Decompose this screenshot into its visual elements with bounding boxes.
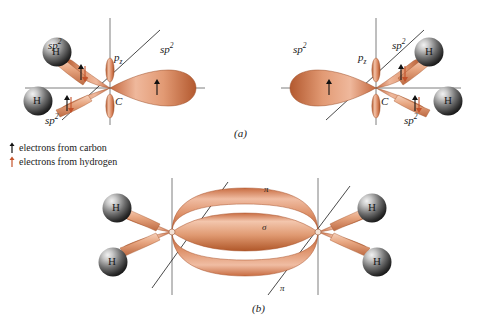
panel-b-ethene [99, 178, 392, 295]
pi-label-bottom: π [280, 284, 285, 293]
sp2-label: sp2 [45, 113, 59, 126]
sigma-bond-lobe [172, 213, 318, 251]
pz-label: pz [358, 52, 366, 66]
panel-b-caption: (b) [252, 303, 265, 314]
hydrogen-label: H [108, 256, 116, 267]
pz-label: pz [114, 52, 122, 66]
bond-stick-right-lower [330, 233, 370, 256]
sp2-label: sp2 [293, 42, 307, 55]
up-arrow-icon [8, 156, 16, 168]
hydrogen-label: H [52, 46, 60, 57]
sigma-label: σ [262, 223, 266, 232]
panel-a-left-atom [24, 18, 206, 125]
legend-item-carbon: electrons from carbon [8, 142, 107, 154]
pz-lobe-lower [372, 94, 380, 118]
pz-lobe-upper [106, 58, 114, 82]
hydrogen-label: H [33, 95, 41, 106]
carbon-label: C [115, 96, 122, 107]
hydrogen-label: H [373, 256, 381, 267]
carbon-nucleus-left [169, 229, 175, 235]
legend-label-hydrogen: electrons from hydrogen [19, 157, 117, 167]
legend-label-carbon: electrons from carbon [19, 143, 107, 153]
sp2-label: sp2 [160, 42, 174, 55]
pz-lobe-upper [372, 58, 380, 82]
figure-canvas: sp2 sp2 sp2 pz C H H sp2 sp2 sp2 pz C H … [0, 0, 486, 331]
sp2-label: sp2 [392, 38, 406, 51]
bond-stick-lower-left [56, 95, 92, 117]
hydrogen-label: H [425, 46, 433, 57]
pz-lobe-lower [106, 94, 114, 118]
carbon-label: C [381, 96, 388, 107]
hydrogen-label: H [368, 202, 376, 213]
panel-a-caption: (a) [234, 128, 247, 139]
hydrogen-label: H [112, 202, 120, 213]
panel-a-right-atom [281, 18, 463, 125]
sp2-lobe-right [110, 70, 196, 106]
up-arrow-icon [8, 142, 16, 154]
legend-item-hydrogen: electrons from hydrogen [8, 156, 117, 168]
hydrogen-label: H [444, 95, 452, 106]
bond-stick-left-lower [120, 233, 160, 256]
pi-label-top: π [264, 185, 269, 194]
sp2-lobe-left [290, 70, 376, 106]
sp2-label: sp2 [404, 113, 418, 126]
carbon-nucleus-right [315, 229, 321, 235]
